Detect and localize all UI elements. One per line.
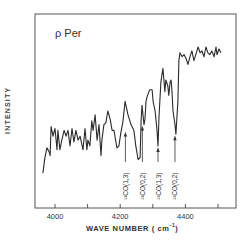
annotation-label: ¹³CO(1,3)	[122, 173, 130, 200]
x-tick-label: 4200	[112, 212, 129, 221]
spectrum-line	[43, 47, 221, 173]
x-tick-label: 4000	[47, 212, 64, 221]
annotation-label: ¹³CO(0,2)	[139, 173, 147, 200]
chart-title: ρ Per	[55, 27, 81, 39]
annotation-label: ¹²CO(1,3)	[155, 173, 163, 200]
arrow-head-icon	[124, 132, 128, 136]
y-axis-label: INTENSITY	[4, 87, 11, 134]
spectrum-chart: ¹³CO(1,3)¹³CO(0,2)¹²CO(1,3)¹²CO(0,2)	[0, 0, 249, 246]
x-axis-label-close: )	[175, 224, 178, 233]
x-axis-label: WAVE NUMBER ( cm-1)	[86, 222, 178, 233]
annotations: ¹³CO(1,3)¹³CO(0,2)¹²CO(1,3)¹²CO(0,2)	[122, 127, 180, 200]
arrow-head-icon	[156, 148, 160, 152]
plot-frame	[35, 14, 236, 208]
x-axis-label-text: WAVE NUMBER ( cm	[86, 224, 170, 233]
arrow-head-icon	[173, 136, 177, 140]
x-tick-label: 4400	[177, 212, 194, 221]
x-axis-ticks	[55, 204, 218, 208]
annotation-label: ¹²CO(0,2)	[171, 173, 179, 200]
